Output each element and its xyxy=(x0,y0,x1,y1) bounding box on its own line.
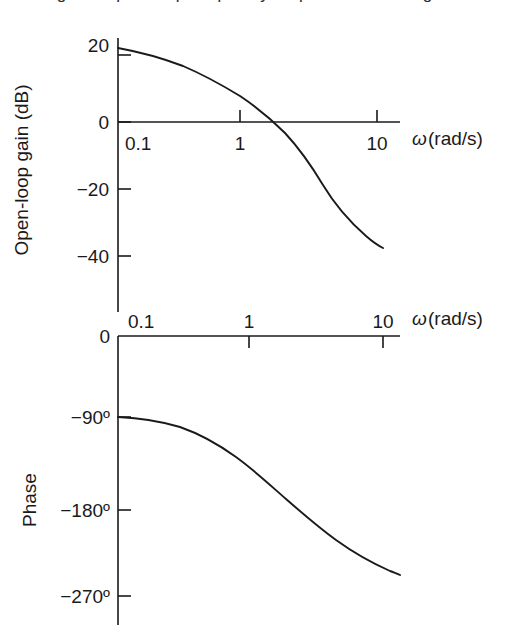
gain-y-label-minus40: −40 xyxy=(77,246,109,267)
phase-x-label-0p1: 0.1 xyxy=(128,311,154,332)
phase-y-axis-title: Phase xyxy=(19,473,40,527)
phase-x-axis-omega-symbol: ω xyxy=(412,308,427,329)
gain-x-label-0p1: 0.1 xyxy=(125,133,151,154)
phase-x-axis-units: (rad/s) xyxy=(428,308,483,329)
bode-figure: Figure: Open-loop frequency response Bod… xyxy=(0,0,505,638)
bode-plot-svg: 20 0 −20 −40 0.1 1 10 ω (rad/s) Open-loo… xyxy=(0,0,505,638)
gain-x-label-1: 1 xyxy=(235,133,246,154)
phase-y-label-minus90: −90º xyxy=(71,407,110,428)
gain-y-label-minus20: −20 xyxy=(77,179,109,200)
gain-x-label-10: 10 xyxy=(366,133,387,154)
phase-x-label-1: 1 xyxy=(244,311,255,332)
gain-x-axis-omega-symbol: ω xyxy=(412,128,427,149)
phase-x-label-10: 10 xyxy=(372,311,393,332)
gain-y-axis-title: Open-loop gain (dB) xyxy=(11,84,32,255)
phase-plot-group: 0.1 1 10 ω (rad/s) 0 −90º −180º −270º Ph… xyxy=(19,308,483,625)
gain-y-label-20: 20 xyxy=(88,35,109,56)
phase-y-label-minus180: −180º xyxy=(60,500,110,521)
gain-y-label-0: 0 xyxy=(98,112,109,133)
clipped-figure-caption: Figure: Open-loop frequency response Bod… xyxy=(0,0,505,6)
phase-curve xyxy=(118,417,400,575)
phase-y-label-0: 0 xyxy=(99,326,110,347)
phase-y-label-minus270: −270º xyxy=(60,586,110,607)
gain-curve xyxy=(118,48,383,248)
gain-x-axis-units: (rad/s) xyxy=(428,128,483,149)
gain-plot-group: 20 0 −20 −40 0.1 1 10 ω (rad/s) Open-loo… xyxy=(11,35,483,312)
